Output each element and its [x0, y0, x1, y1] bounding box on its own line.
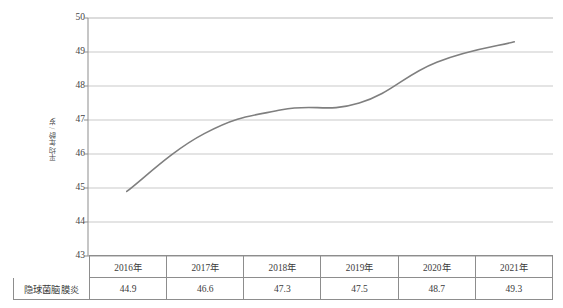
table-header-cell: 2021年	[475, 256, 552, 278]
table-data-cell: 47.3	[244, 278, 321, 300]
y-axis-ticks	[84, 18, 88, 256]
table-header-cell: 2019年	[321, 256, 398, 278]
chart-plot-region: 平均年龄 / 岁 50 49 48 47 46 45 44 43	[0, 0, 563, 258]
table-header-cell: 2016年	[90, 256, 167, 278]
table-header-cell: 2020年	[398, 256, 475, 278]
series-line-cryptococcal-meningitis	[127, 42, 515, 192]
table-corner-cell	[14, 256, 90, 278]
gridlines	[88, 18, 553, 256]
table-data-cell: 48.7	[398, 278, 475, 300]
chart-data-table: 2016年 2017年 2018年 2019年 2020年 2021年 隐球菌脑…	[13, 255, 553, 300]
table-header-cell: 2018年	[244, 256, 321, 278]
line-chart-svg	[0, 0, 563, 258]
table-data-cell: 46.6	[167, 278, 244, 300]
chart-figure: 平均年龄 / 岁 50 49 48 47 46 45 44 43	[0, 0, 563, 308]
table-header-row: 2016年 2017年 2018年 2019年 2020年 2021年	[14, 256, 553, 278]
table-row-label: 隐球菌脑膜炎	[14, 278, 90, 300]
table-row: 隐球菌脑膜炎 44.9 46.6 47.3 47.5 48.7 49.3	[14, 278, 553, 300]
table-data-cell: 44.9	[90, 278, 167, 300]
table-header-cell: 2017年	[167, 256, 244, 278]
table-data-cell: 49.3	[475, 278, 552, 300]
table-data-cell: 47.5	[321, 278, 398, 300]
